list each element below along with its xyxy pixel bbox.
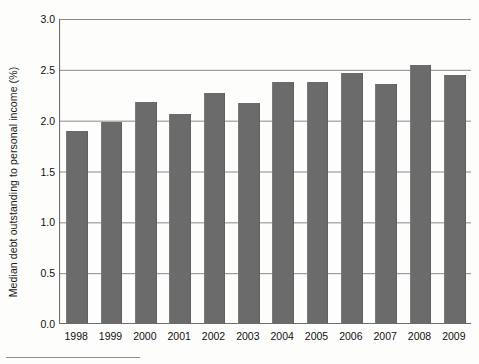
x-tick-label: 2003: [236, 330, 259, 342]
y-tick-label: 1.5: [25, 166, 55, 178]
figure-canvas: Median debt outstanding to personal inco…: [0, 0, 479, 364]
x-tick-label: 2009: [442, 330, 465, 342]
bar: [204, 93, 226, 324]
bar: [444, 75, 466, 324]
y-tick-label: 3.0: [25, 13, 55, 25]
bar: [238, 103, 260, 324]
x-tick-label: 2006: [339, 330, 362, 342]
y-tick-label: 1.0: [25, 216, 55, 228]
y-tick-label: 0.0: [25, 318, 55, 330]
bar: [410, 65, 432, 324]
plot-area: [59, 19, 471, 324]
bar: [307, 82, 329, 324]
x-axis-tick-labels: 1998199920002001200220032004200520062007…: [59, 330, 471, 348]
y-tick-label: 2.5: [25, 64, 55, 76]
x-tick-label: 1999: [99, 330, 122, 342]
bar: [375, 84, 397, 324]
bar: [272, 82, 294, 324]
y-tick-label: 0.5: [25, 267, 55, 279]
footnote-rule: [6, 357, 140, 358]
bars-layer: [59, 19, 471, 324]
bar: [101, 122, 123, 324]
bar: [169, 114, 191, 324]
x-tick-label: 2008: [408, 330, 431, 342]
x-tick-label: 2002: [202, 330, 225, 342]
x-tick-label: 2000: [133, 330, 156, 342]
x-tick-label: 1998: [64, 330, 87, 342]
bar: [135, 102, 157, 324]
x-tick-label: 2005: [305, 330, 328, 342]
x-tick-label: 2001: [167, 330, 190, 342]
bar: [66, 131, 88, 324]
y-tick-label: 2.0: [25, 115, 55, 127]
x-tick-label: 2004: [270, 330, 293, 342]
bar: [341, 73, 363, 324]
y-axis-tick-labels: 0.00.51.01.52.02.53.0: [17, 19, 55, 324]
x-tick-label: 2007: [373, 330, 396, 342]
